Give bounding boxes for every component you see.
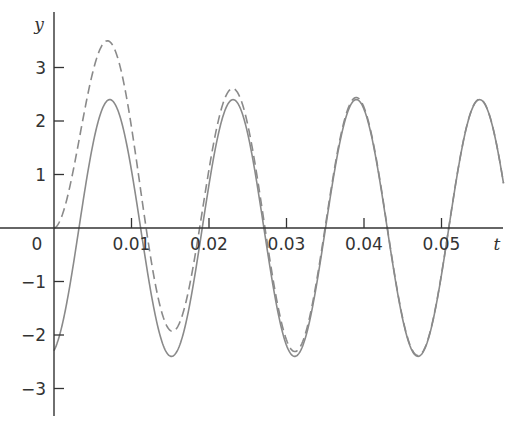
x-tick-label: 0.04 bbox=[345, 234, 383, 254]
y-tick-label: −2 bbox=[21, 325, 46, 345]
chart: −3−2−112300.010.020.030.040.05yt bbox=[0, 0, 517, 427]
y-tick-label: −3 bbox=[21, 379, 46, 399]
x-tick-label: 0.05 bbox=[423, 234, 461, 254]
x-tick-label: 0 bbox=[32, 234, 43, 254]
x-tick-label: 0.02 bbox=[190, 234, 228, 254]
x-axis-label: t bbox=[494, 234, 501, 254]
x-tick-label: 0.03 bbox=[268, 234, 306, 254]
curves bbox=[54, 41, 504, 357]
y-tick-label: −1 bbox=[21, 272, 46, 292]
y-tick-label: 1 bbox=[35, 165, 46, 185]
series-total-response bbox=[54, 41, 504, 356]
x-tick-label: 0.01 bbox=[113, 234, 151, 254]
y-axis-label: y bbox=[33, 14, 44, 34]
y-tick-label: 2 bbox=[35, 111, 46, 131]
axes: −3−2−112300.010.020.030.040.05yt bbox=[0, 12, 503, 416]
y-tick-label: 3 bbox=[35, 58, 46, 78]
